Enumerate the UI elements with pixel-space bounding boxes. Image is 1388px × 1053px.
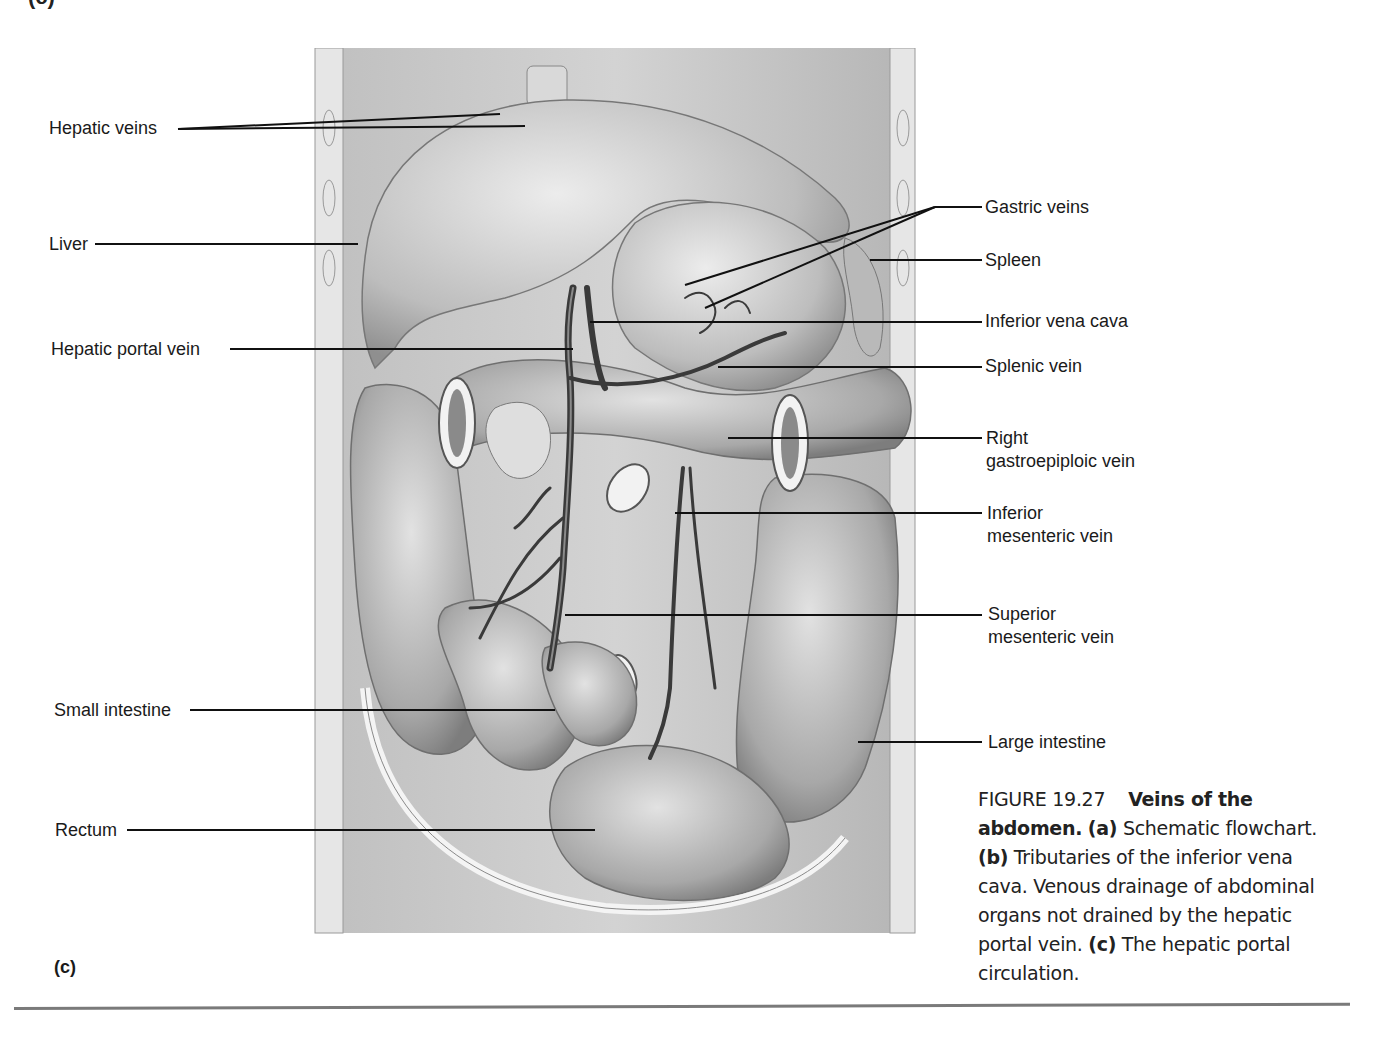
label-line-1: Right xyxy=(986,427,1206,450)
panel-letter: (c) xyxy=(54,957,76,978)
caption-part-a-label: (a) xyxy=(1088,817,1117,839)
figure-number: FIGURE 19.27 xyxy=(978,788,1105,810)
label-superior-mesenteric-vein: Superior mesenteric vein xyxy=(988,603,1208,649)
label-right-gastroepiploic-vein: Right gastroepiploic vein xyxy=(986,427,1206,473)
page-divider xyxy=(14,1003,1350,1010)
label-hepatic-veins: Hepatic veins xyxy=(49,117,157,140)
label-small-intestine: Small intestine xyxy=(54,699,171,722)
label-line-1: Inferior xyxy=(987,502,1207,525)
label-line-2: gastroepiploic vein xyxy=(986,450,1206,473)
label-inferior-mesenteric-vein: Inferior mesenteric vein xyxy=(987,502,1207,548)
caption-part-a-text: Schematic flowchart. xyxy=(1117,817,1317,839)
figure-caption: FIGURE 19.27 Veins of the abdomen. (a) S… xyxy=(978,785,1338,988)
label-line-1: Superior xyxy=(988,603,1208,626)
caption-part-c-label: (c) xyxy=(1088,933,1116,955)
label-rectum: Rectum xyxy=(55,819,117,842)
label-inferior-vena-cava: Inferior vena cava xyxy=(985,310,1128,333)
label-spleen: Spleen xyxy=(985,249,1041,272)
label-splenic-vein: Splenic vein xyxy=(985,355,1082,378)
top-panel-letter: (c) xyxy=(28,0,55,10)
label-line-2: mesenteric vein xyxy=(988,626,1208,649)
caption-part-b-label: (b) xyxy=(978,846,1008,868)
label-line-2: mesenteric vein xyxy=(987,525,1207,548)
label-liver: Liver xyxy=(49,233,88,256)
label-hepatic-portal-vein: Hepatic portal vein xyxy=(51,338,200,361)
label-large-intestine: Large intestine xyxy=(988,731,1106,754)
label-gastric-veins: Gastric veins xyxy=(985,196,1089,219)
abdomen-illustration xyxy=(305,48,925,938)
